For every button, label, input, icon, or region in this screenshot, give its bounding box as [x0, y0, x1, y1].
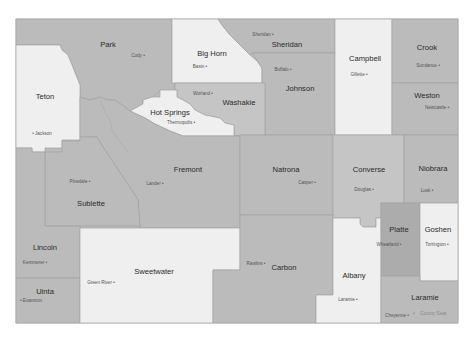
county-label-natrona: Natrona: [272, 165, 300, 174]
county-label-niobrara: Niobrara: [418, 164, 448, 173]
county-label-teton: Teton: [36, 92, 55, 101]
seat-label-green-river: Green River •: [87, 280, 115, 285]
county-campbell[interactable]: [335, 19, 392, 135]
seat-label-kemmerer: Kemmerer •: [23, 260, 48, 265]
seat-label-lander: Lander •: [146, 181, 164, 186]
seat-label-buffalo: Buffalo •: [274, 67, 291, 72]
county-label-johnson: Johnson: [286, 84, 315, 93]
seat-label-evanston: • Evanston: [20, 298, 42, 303]
seat-label-lusk: Lusk •: [421, 188, 434, 193]
county-label-uinta: Uinta: [36, 287, 55, 296]
county-label-carbon: Carbon: [272, 263, 297, 272]
county-label-sublette: Sublette: [77, 199, 105, 208]
seat-label-worland: Worland •: [193, 91, 213, 96]
county-label-sweetwater: Sweetwater: [134, 267, 174, 276]
legend-label: County Seat: [420, 311, 447, 316]
seat-label-douglas: Douglas •: [354, 187, 374, 192]
county-natrona[interactable]: [240, 135, 333, 215]
county-label-albany: Albany: [342, 271, 365, 280]
seat-label-newcastle: Newcastle •: [425, 105, 449, 110]
seat-label-wheatland: Wheatland •: [377, 242, 402, 247]
seat-label-basin: Basin •: [193, 64, 208, 69]
seat-label-cheyenne: Cheyenne •: [385, 313, 409, 318]
seat-label-casper: Casper •: [298, 180, 316, 185]
county-label-campbell: Campbell: [349, 54, 381, 63]
seat-label-jackson: • Jackson: [32, 131, 52, 136]
county-label-converse: Converse: [353, 165, 386, 174]
county-label-platte: Platte: [389, 225, 408, 234]
seat-label-rawlins: Rawlins •: [247, 261, 266, 266]
seat-label-torrington: Torrington •: [425, 242, 449, 247]
seat-label-cody: Cody •: [131, 53, 145, 58]
seat-label-sundance: Sundance •: [416, 63, 440, 68]
county-label-hot-springs: Hot Springs: [150, 108, 190, 117]
seat-label-thermopolis: Thermopolis •: [167, 120, 196, 125]
county-label-lincoln: Lincoln: [33, 243, 57, 252]
seat-label-sheridan: Sheridan •: [252, 32, 274, 37]
county-label-laramie: Laramie: [411, 293, 438, 302]
county-label-park: Park: [100, 40, 116, 49]
county-label-crook: Crook: [417, 43, 437, 52]
seat-label-pinedale: Pinedale •: [70, 179, 91, 184]
county-label-big-horn: Big Horn: [197, 49, 227, 58]
county-label-washakie: Washakie: [222, 98, 255, 107]
seat-label-laramie-city: Laramie •: [338, 297, 358, 302]
county-platte[interactable]: [381, 203, 420, 276]
wyoming-county-map: Park Cody • Teton • Jackson Big Horn Bas…: [0, 0, 475, 338]
county-label-weston: Weston: [414, 91, 440, 100]
county-label-sheridan: Sheridan: [272, 40, 302, 49]
county-label-goshen: Goshen: [425, 225, 452, 234]
seat-label-gillette: Gillette •: [350, 72, 368, 77]
county-label-fremont: Fremont: [174, 165, 203, 174]
